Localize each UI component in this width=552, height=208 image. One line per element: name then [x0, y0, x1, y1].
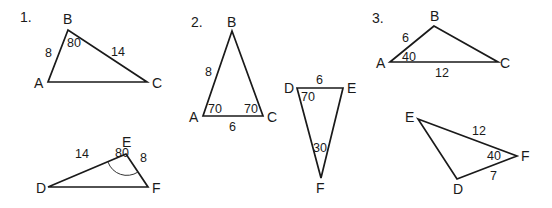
side-ab-length: 8	[205, 65, 212, 79]
side-de-length: 6	[316, 73, 323, 87]
vertex-c-label: C	[267, 109, 277, 125]
vertex-c-label: C	[152, 75, 162, 91]
vertex-b-label: B	[430, 8, 439, 24]
vertex-f-label: F	[152, 180, 161, 196]
problem-2: 2. B A C 8 6 70 70 D E F 6 70 30	[189, 14, 356, 196]
triangle-abc	[48, 30, 147, 82]
side-ef-length: 8	[140, 151, 147, 165]
vertex-f-label: F	[521, 148, 530, 164]
problem-1-triangle-abc: B A C 8 14 80	[34, 11, 162, 91]
triangle-def	[418, 119, 517, 179]
side-ab-length: 8	[45, 46, 52, 60]
side-ef-length: 12	[472, 124, 486, 138]
side-ac-length: 6	[229, 120, 236, 134]
problem-number: 2.	[191, 14, 203, 30]
problem-number: 3.	[372, 10, 384, 26]
problem-number: 1.	[20, 9, 32, 25]
triangle-def	[48, 154, 148, 187]
angle-a-measure: 40	[402, 50, 416, 64]
problem-3-triangle-abc: B A C 6 12 40	[376, 8, 510, 80]
vertex-d-label: D	[284, 80, 294, 96]
angle-a-measure: 70	[208, 102, 222, 116]
vertex-c-label: C	[500, 55, 510, 71]
side-df-length: 7	[490, 169, 497, 183]
vertex-a-label: A	[376, 55, 386, 71]
problem-1-triangle-def: E D F 14 8 80	[36, 134, 161, 196]
vertex-a-label: A	[189, 109, 199, 125]
vertex-f-label: F	[316, 180, 325, 196]
side-ac-length: 12	[435, 66, 449, 80]
side-bc-length: 14	[111, 45, 125, 59]
angle-f-measure: 40	[487, 149, 501, 163]
triangle-congruence-diagram: 1. B A C 8 14 80 E D F 14 8 80 2. B A C	[0, 0, 552, 208]
problem-2-triangle-def: D E F 6 70 30	[284, 73, 356, 196]
angle-b-measure: 80	[67, 36, 81, 50]
vertex-d-label: D	[36, 180, 46, 196]
vertex-a-label: A	[34, 75, 44, 91]
problem-2-triangle-abc: B A C 8 6 70 70	[189, 14, 277, 134]
angle-d-measure: 70	[301, 90, 315, 104]
vertex-d-label: D	[453, 181, 463, 197]
problem-3-triangle-def: E F D 12 7 40	[405, 109, 530, 197]
vertex-e-label: E	[347, 80, 356, 96]
side-de-length: 14	[75, 147, 89, 161]
angle-c-measure: 70	[244, 102, 258, 116]
angle-e-measure: 80	[115, 146, 129, 160]
vertex-e-label: E	[405, 109, 414, 125]
problem-3: 3. B A C 6 12 40 E F D 12 7 40	[372, 8, 530, 197]
angle-f-measure: 30	[313, 141, 327, 155]
vertex-b-label: B	[227, 14, 236, 30]
problem-1: 1. B A C 8 14 80 E D F 14 8 80	[20, 9, 162, 196]
vertex-b-label: B	[63, 11, 72, 27]
side-ab-length: 6	[402, 31, 409, 45]
